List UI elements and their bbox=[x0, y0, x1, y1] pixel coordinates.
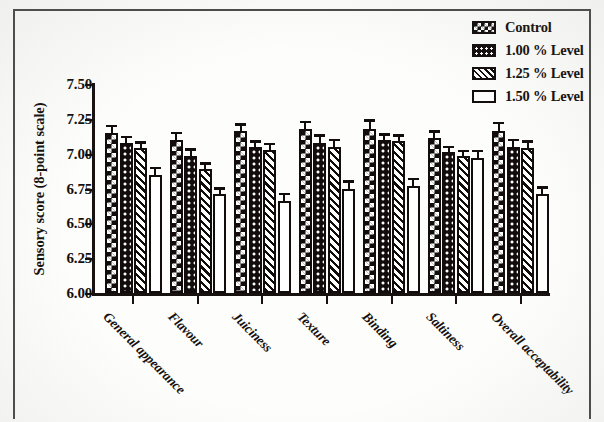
error-bar bbox=[269, 145, 271, 149]
bar bbox=[536, 194, 549, 293]
error-bar bbox=[348, 183, 350, 189]
bar bbox=[184, 156, 197, 293]
error-bar bbox=[462, 152, 464, 156]
error-bar bbox=[283, 195, 285, 201]
error-bar bbox=[498, 124, 500, 131]
bar bbox=[521, 148, 534, 293]
bar bbox=[328, 147, 341, 293]
error-bar-cap bbox=[214, 187, 225, 190]
error-bar bbox=[383, 136, 385, 140]
figure-panel: Sensory score (8-point scale) 6.006.256.… bbox=[0, 0, 604, 422]
bar bbox=[471, 158, 484, 293]
error-bar-cap bbox=[279, 193, 290, 196]
error-bar-cap bbox=[493, 122, 504, 125]
bar-group bbox=[363, 84, 420, 293]
error-bar bbox=[240, 126, 242, 132]
chart-legend: Control1.00 % Level1.25 % Level1.50 % Le… bbox=[472, 16, 594, 108]
error-bar-cap bbox=[250, 140, 261, 143]
bar bbox=[492, 131, 505, 293]
error-bar-cap bbox=[393, 134, 404, 137]
error-bar-cap bbox=[408, 178, 419, 181]
legend-swatch bbox=[472, 67, 496, 80]
error-bar-cap bbox=[135, 141, 146, 144]
bar-group bbox=[170, 84, 227, 293]
error-bar-cap bbox=[300, 121, 311, 124]
bar bbox=[234, 131, 247, 293]
x-tick-mark bbox=[455, 295, 457, 304]
error-bar-cap bbox=[329, 139, 340, 142]
y-tick-label: 6.00 bbox=[67, 285, 92, 302]
error-bar-cap bbox=[522, 140, 533, 143]
bar bbox=[342, 189, 355, 294]
error-bar bbox=[219, 190, 221, 194]
error-bar-cap bbox=[508, 139, 519, 142]
bar-group bbox=[234, 84, 291, 293]
y-tick-label: 7.00 bbox=[67, 145, 92, 162]
legend-item: 1.50 % Level bbox=[472, 85, 594, 107]
bar bbox=[363, 129, 376, 293]
error-bar-cap bbox=[314, 134, 325, 137]
y-tick-label: 7.25 bbox=[67, 110, 92, 127]
error-bar bbox=[204, 165, 206, 169]
x-tick-mark bbox=[132, 295, 134, 304]
legend-item: Control bbox=[472, 16, 594, 38]
error-bar-cap bbox=[537, 186, 548, 189]
bar bbox=[507, 147, 520, 293]
bar bbox=[392, 141, 405, 293]
bar bbox=[313, 143, 326, 293]
bar-group bbox=[492, 84, 549, 293]
error-bar-cap bbox=[185, 148, 196, 151]
error-bar bbox=[190, 151, 192, 157]
error-bar-cap bbox=[364, 119, 375, 122]
y-tick-label: 6.75 bbox=[67, 180, 92, 197]
bar bbox=[213, 194, 226, 293]
bar bbox=[134, 148, 147, 293]
bar bbox=[120, 143, 133, 293]
plot-area: 6.006.256.506.757.007.257.50 bbox=[97, 84, 549, 293]
error-bar bbox=[433, 133, 435, 139]
error-bar bbox=[369, 122, 371, 129]
bar bbox=[299, 129, 312, 293]
legend-swatch bbox=[472, 44, 496, 57]
bar-group bbox=[105, 84, 162, 293]
error-bar-cap bbox=[472, 150, 483, 153]
error-bar bbox=[125, 138, 127, 142]
legend-swatch bbox=[472, 90, 496, 103]
error-bar bbox=[154, 169, 156, 175]
bar bbox=[378, 140, 391, 293]
error-bar bbox=[111, 127, 113, 133]
bar bbox=[457, 156, 470, 293]
error-bar-cap bbox=[235, 123, 246, 126]
legend-label: 1.50 % Level bbox=[505, 88, 584, 105]
error-bar-cap bbox=[106, 125, 117, 128]
error-bar-cap bbox=[379, 133, 390, 136]
x-tick-mark bbox=[261, 295, 263, 304]
legend-label: 1.00 % Level bbox=[505, 42, 584, 59]
error-bar bbox=[140, 144, 142, 148]
legend-label: Control bbox=[505, 19, 552, 36]
x-tick-mark bbox=[520, 295, 522, 304]
error-bar-cap bbox=[121, 136, 132, 139]
bar bbox=[442, 152, 455, 293]
bar-group bbox=[299, 84, 356, 293]
bar bbox=[428, 138, 441, 293]
error-bar bbox=[319, 137, 321, 143]
error-bar bbox=[477, 152, 479, 158]
bar bbox=[199, 169, 212, 293]
error-bar-cap bbox=[429, 130, 440, 133]
error-bar bbox=[333, 141, 335, 147]
error-bar-cap bbox=[343, 180, 354, 183]
error-bar bbox=[254, 143, 256, 147]
x-tick-mark bbox=[326, 295, 328, 304]
y-tick-label: 6.25 bbox=[67, 250, 92, 267]
bar bbox=[105, 133, 118, 293]
y-tick-label: 6.50 bbox=[67, 215, 92, 232]
legend-item: 1.00 % Level bbox=[472, 39, 594, 61]
error-bar bbox=[448, 148, 450, 152]
bar bbox=[149, 175, 162, 293]
error-bar bbox=[527, 143, 529, 149]
bar bbox=[263, 150, 276, 294]
x-tick-mark bbox=[391, 295, 393, 304]
legend-item: 1.25 % Level bbox=[472, 62, 594, 84]
error-bar-cap bbox=[264, 143, 275, 146]
